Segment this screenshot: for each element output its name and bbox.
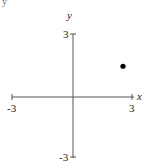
data-point bbox=[120, 64, 125, 69]
coordinate-plane: x y -3 3 3 -3 bbox=[0, 0, 154, 168]
y-axis-label: y bbox=[66, 9, 72, 21]
data-points bbox=[120, 64, 125, 69]
x-max-label: 3 bbox=[129, 102, 135, 114]
x-min-label: -3 bbox=[7, 102, 17, 114]
x-axis-label: x bbox=[136, 90, 142, 102]
y-min-label: -3 bbox=[59, 151, 69, 163]
y-max-label: 3 bbox=[63, 28, 69, 40]
